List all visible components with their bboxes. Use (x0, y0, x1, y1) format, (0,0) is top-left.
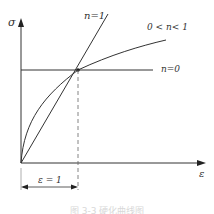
x-axis-arrow-icon (197, 160, 206, 166)
y-axis-arrow-icon (18, 18, 24, 27)
y-axis-label: σ (8, 16, 16, 29)
curve-n-1 (21, 14, 108, 163)
curve-n-0-label: n=0 (161, 64, 180, 74)
figure-caption: 图 3-3 硬化曲线图 (70, 205, 144, 214)
curve-n-1-label: n=1 (84, 10, 105, 21)
x-axis-label: ε (199, 168, 204, 179)
curve-n-between-label: 0 < n< 1 (147, 22, 188, 32)
curve-n-between (21, 40, 166, 163)
stress-strain-diagram: σ ε n=0 n=1 0 < n< 1 ε = 1 图 3-3 硬化曲线图 (0, 0, 214, 214)
dimension-arrow-left-icon (21, 185, 28, 190)
dimension-arrow-right-icon (71, 185, 78, 190)
dimension-label: ε = 1 (38, 175, 62, 185)
